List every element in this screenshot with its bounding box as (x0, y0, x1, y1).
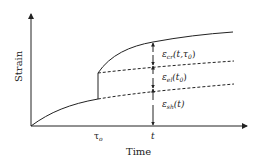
shrinkage-curve-dashed (98, 84, 234, 99)
y-axis-label: Strain (13, 50, 24, 82)
tick-tau0: τo (94, 131, 103, 142)
x-axis-label: Time (126, 146, 151, 157)
shrinkage-curve-initial (31, 99, 98, 126)
tick-t: t (151, 131, 155, 141)
shrinkage-strain-label: εsh(t) (162, 99, 185, 110)
creep-strain-label: εcr(t,τ0) (162, 49, 195, 60)
elastic-strain-label: εel(t0) (162, 72, 187, 83)
strain-time-diagram: εcr(t,τ0) εel(t0) εsh(t) τo t Time Strai… (0, 0, 259, 160)
